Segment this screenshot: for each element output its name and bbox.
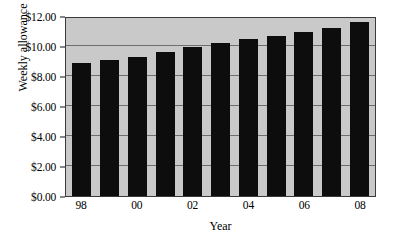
bar-chart: Weekly allowance $0.00$2.00$4.00$6.00$8.… (0, 0, 394, 245)
y-tick-label: $6.00 (31, 101, 56, 113)
bar-slot (68, 18, 96, 196)
x-tick-blank (318, 199, 346, 219)
x-tick-label-08: 08 (346, 199, 374, 219)
bar-slot (207, 18, 235, 196)
bar-slot (345, 18, 373, 196)
bar-98 (72, 63, 91, 197)
y-tick-label: $10.00 (26, 41, 56, 53)
x-axis: 980002040608 (65, 199, 376, 219)
y-axis: $0.00$2.00$4.00$6.00$8.00$10.00$12.00 (0, 0, 65, 198)
y-tick-label: $0.00 (31, 191, 56, 203)
bar-03 (211, 43, 230, 196)
bar-slot (234, 18, 262, 196)
bar-slot (262, 18, 290, 196)
x-tick-blank (151, 199, 179, 219)
x-axis-title: Year (65, 219, 376, 234)
plot-area (65, 17, 376, 197)
bar-slot (123, 18, 151, 196)
x-tick-label-02: 02 (179, 199, 207, 219)
bar-slot (179, 18, 207, 196)
x-tick-label-06: 06 (290, 199, 318, 219)
bar-00 (128, 57, 147, 197)
bar-07 (322, 28, 341, 196)
x-tick-blank (95, 199, 123, 219)
bar-slot (151, 18, 179, 196)
bar-04 (239, 39, 258, 197)
y-tick-label: $12.00 (26, 11, 56, 23)
bar-06 (294, 32, 313, 196)
bar-slot (318, 18, 346, 196)
x-tick-label-04: 04 (234, 199, 262, 219)
bar-slot (96, 18, 124, 196)
bar-slot (290, 18, 318, 196)
bar-01 (156, 52, 175, 196)
x-tick-blank (262, 199, 290, 219)
bar-series (66, 18, 375, 196)
bar-08 (350, 22, 369, 196)
x-tick-blank (207, 199, 235, 219)
x-tick-label-98: 98 (67, 199, 95, 219)
y-tick-label: $8.00 (31, 71, 56, 83)
x-tick-label-00: 00 (123, 199, 151, 219)
bar-99 (100, 60, 119, 197)
bar-02 (183, 47, 202, 196)
bar-05 (267, 36, 286, 197)
y-tick-label: $4.00 (31, 131, 56, 143)
y-tick-label: $2.00 (31, 161, 56, 173)
